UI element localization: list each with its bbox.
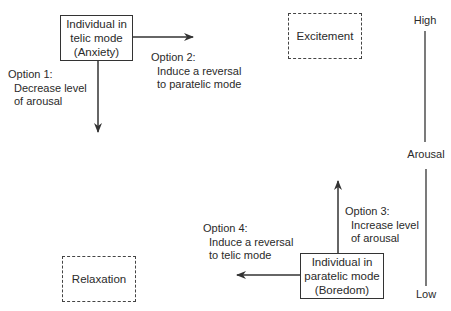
excitement-box: Excitement: [288, 13, 362, 59]
option3-line-2: of arousal: [345, 232, 419, 246]
paratelic-line-3: (Boredom): [315, 283, 369, 297]
paratelic-line-1: Individual in: [312, 255, 373, 269]
telic-line-1: Individual in: [66, 17, 127, 31]
option4-line-2: to telic mode: [203, 249, 293, 263]
relaxation-box: Relaxation: [62, 256, 136, 302]
option2-line-2: to paratelic mode: [151, 78, 241, 92]
option3-title: Option 3:: [345, 205, 390, 217]
option3-label: Option 3: Increase level of arousal: [345, 205, 419, 246]
relaxation-label: Relaxation: [72, 273, 126, 285]
telic-mode-box: Individual in telic mode (Anxiety): [60, 15, 133, 61]
option3-line-1: Increase level: [345, 219, 419, 233]
paratelic-line-2: paratelic mode: [304, 269, 379, 283]
option1-title: Option 1:: [8, 68, 53, 80]
option2-title: Option 2:: [151, 51, 196, 63]
excitement-label: Excitement: [297, 30, 354, 42]
axis-low-label: Low: [416, 288, 436, 300]
option2-line-1: Induce a reversal: [151, 65, 241, 79]
option4-line-1: Induce a reversal: [203, 236, 293, 250]
option1-line-1: Decrease level: [8, 82, 87, 96]
paratelic-mode-box: Individual in paratelic mode (Boredom): [300, 253, 384, 299]
option1-label: Option 1: Decrease level of arousal: [8, 68, 87, 109]
option4-label: Option 4: Induce a reversal to telic mod…: [203, 222, 293, 263]
axis-high-label: High: [414, 14, 437, 26]
axis-arousal-label: Arousal: [407, 148, 444, 160]
option4-title: Option 4:: [203, 222, 248, 234]
option2-label: Option 2: Induce a reversal to paratelic…: [151, 51, 241, 92]
option1-line-2: of arousal: [8, 95, 87, 109]
telic-line-2: telic mode: [70, 31, 122, 45]
telic-line-3: (Anxiety): [74, 45, 119, 59]
